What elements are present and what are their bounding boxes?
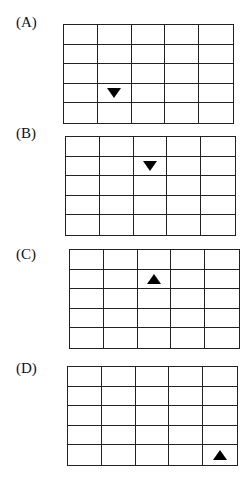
grid-cell [68,426,102,446]
grid-cell [203,367,237,387]
grid-cell [132,64,166,84]
grid-cell [165,64,199,84]
grid-cell [98,64,132,84]
grid-cell [98,25,132,45]
grid-cell [98,84,132,104]
grid-cell [199,45,233,65]
triangle-down-icon [143,161,157,171]
grid-cell [165,25,199,45]
grid-cell [169,445,203,465]
grid-cell [132,103,166,123]
grid-cell [201,137,235,157]
grid-cell [100,215,134,235]
option-b-label: (B) [16,126,36,141]
grid-cell [203,426,237,446]
grid-cell [169,387,203,407]
grid-cell [102,445,136,465]
grid-cell [165,45,199,65]
grid-cell [138,270,172,290]
grid-cell [203,387,237,407]
grid-cell [66,176,100,196]
option-c-grid [69,249,240,349]
grid-cell [100,137,134,157]
grid-cell [136,406,170,426]
grid-cell [68,445,102,465]
grid-cell [201,215,235,235]
grid-cell [138,250,172,270]
grid-cell [205,250,239,270]
grid-cell [134,215,168,235]
grid-cell [66,137,100,157]
grid-cell [167,176,201,196]
grid-cell [70,328,104,348]
grid-cell [138,328,172,348]
grid-cell [64,84,98,104]
grid-cell [68,406,102,426]
grid-cell [68,367,102,387]
grid-cell [102,367,136,387]
triangle-down-icon [107,88,121,98]
grid-cell [64,103,98,123]
grid-cell [132,84,166,104]
grid-cell [70,270,104,290]
triangle-up-icon [213,450,227,460]
option-d-grid [67,366,238,466]
grid-cell [167,137,201,157]
grid-cell [169,406,203,426]
grid-cell [138,309,172,329]
grid-cell [64,25,98,45]
grid-cell [136,445,170,465]
grid-cell [199,103,233,123]
grid-cell [167,215,201,235]
grid-cell [70,309,104,329]
grid-cell [171,250,205,270]
grid-cell [104,270,138,290]
grid-cell [205,270,239,290]
grid-cell [100,176,134,196]
option-a-label: (A) [16,15,37,30]
grid-cell [102,387,136,407]
grid-cell [203,406,237,426]
grid-cell [104,289,138,309]
grid-cell [102,406,136,426]
grid-cell [169,367,203,387]
grid-cell [167,196,201,216]
grid-cell [138,289,172,309]
grid-cell [165,103,199,123]
grid-cell [201,196,235,216]
option-b-grid [65,136,236,236]
grid-cell [66,196,100,216]
grid-cell [201,176,235,196]
grid-cell [132,45,166,65]
grid-cell [70,250,104,270]
grid-cell [171,270,205,290]
option-c-label: (C) [16,247,36,262]
grid-cell [199,64,233,84]
grid-cell [134,176,168,196]
grid-cell [134,196,168,216]
grid-cell [169,426,203,446]
option-d-label: (D) [16,361,37,376]
grid-cell [64,64,98,84]
grid-cell [136,387,170,407]
grid-cell [136,426,170,446]
grid-cell [165,84,199,104]
grid-cell [132,25,166,45]
grid-cell [68,387,102,407]
grid-cell [100,196,134,216]
grid-cell [203,445,237,465]
grid-cell [205,309,239,329]
grid-cell [64,45,98,65]
option-a-grid [63,24,234,124]
grid-cell [167,157,201,177]
grid-cell [134,157,168,177]
grid-cell [66,215,100,235]
grid-cell [100,157,134,177]
grid-cell [134,137,168,157]
grid-cell [98,45,132,65]
grid-cell [205,328,239,348]
triangle-up-icon [147,274,161,284]
grid-cell [199,25,233,45]
grid-cell [136,367,170,387]
grid-cell [205,289,239,309]
